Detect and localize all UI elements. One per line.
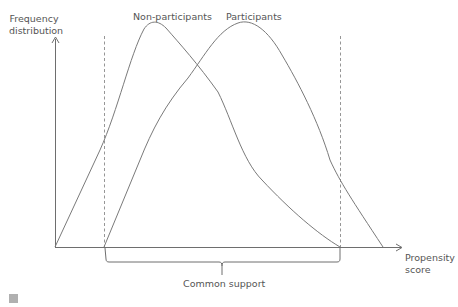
x-axis-label-line1: Propensity <box>405 252 455 264</box>
gray-swatch <box>9 294 18 303</box>
y-axis-label-line1: Frequency <box>9 13 59 25</box>
common-support-label: Common support <box>183 278 265 290</box>
x-axis-label-line2: score <box>405 264 455 276</box>
participants-curve <box>104 22 383 247</box>
common-support-brace <box>105 248 340 275</box>
x-axis-label: Propensity score <box>405 252 455 276</box>
non-participants-label: Non-participants <box>133 11 212 23</box>
y-axis-label-line2: distribution <box>9 25 59 37</box>
propensity-score-diagram: Frequency distribution Propensity score … <box>0 0 458 307</box>
non-participants-curve <box>55 22 340 247</box>
diagram-canvas <box>0 0 458 307</box>
y-axis-label: Frequency distribution <box>9 13 59 37</box>
participants-label: Participants <box>226 11 282 23</box>
